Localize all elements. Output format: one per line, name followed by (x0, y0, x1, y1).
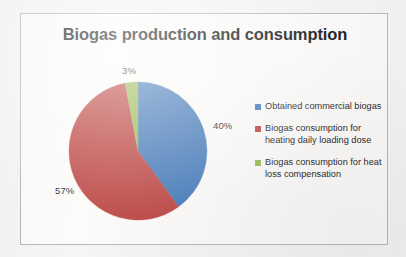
legend-swatch-icon (255, 160, 261, 166)
pie-data-label-heat-loss-compensation: 3% (122, 65, 136, 76)
pie-data-label-heating-daily-loading-dose: 57% (55, 185, 74, 196)
legend-item-label: Biogas consumption for heating daily loa… (265, 123, 385, 146)
legend-item-heat-loss-compensation: Biogas consumption for heat loss compens… (255, 157, 385, 180)
chart-legend: Obtained commercial biogas Biogas consum… (255, 101, 385, 191)
legend-item-label: Biogas consumption for heat loss compens… (265, 157, 385, 180)
legend-swatch-icon (255, 126, 261, 132)
legend-item-obtained-commercial-biogas: Obtained commercial biogas (255, 101, 385, 112)
legend-item-heating-daily-loading-dose: Biogas consumption for heating daily loa… (255, 123, 385, 146)
chart-frame: Biogas production and consumption 3% 40%… (20, 13, 388, 245)
pie-plot-area: 3% 40% 57% Obtained commercial biogas Bi… (21, 14, 389, 246)
pie-slice-group (69, 82, 207, 220)
legend-swatch-icon (255, 104, 261, 110)
legend-item-label: Obtained commercial biogas (265, 101, 381, 112)
pie-chart (68, 81, 208, 221)
pie-data-label-obtained-commercial-biogas: 40% (213, 120, 232, 131)
